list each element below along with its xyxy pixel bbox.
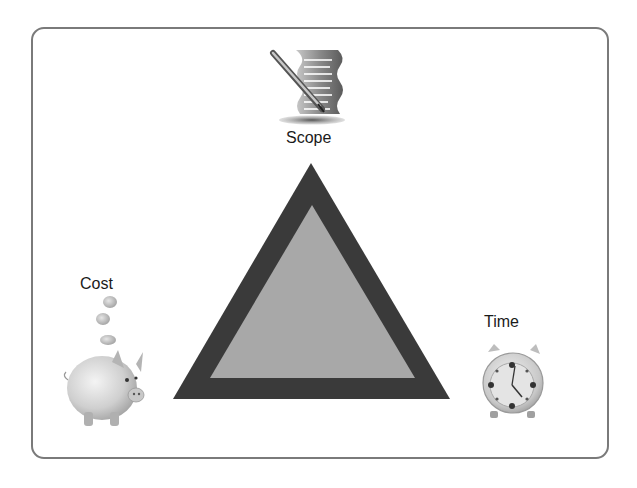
piggy-bank-icon: [64, 296, 144, 426]
diagram-canvas: [0, 0, 637, 488]
scope-label: Scope: [286, 129, 331, 147]
cost-label: Cost: [80, 275, 113, 293]
project-triangle: [173, 163, 450, 399]
time-label: Time: [484, 313, 519, 331]
document-pen-icon: [273, 50, 345, 125]
alarm-clock-icon: [483, 344, 543, 418]
